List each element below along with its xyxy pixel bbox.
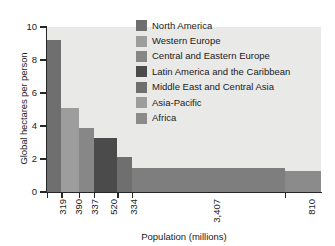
ecological-footprint-bar-chart: Global hectares per person 0246810 31939… xyxy=(0,0,335,246)
bar xyxy=(47,40,61,192)
x-axis-tick-label: 319 xyxy=(58,199,68,215)
legend-item-label: Middle East and Central Asia xyxy=(152,82,274,92)
x-axis-line xyxy=(46,192,322,193)
legend-item: Central and Eastern Europe xyxy=(136,49,290,64)
legend-swatch-icon xyxy=(136,51,147,62)
y-axis-tick xyxy=(40,59,47,60)
legend-item-label: Asia-Pacific xyxy=(152,98,202,108)
y-axis-tick xyxy=(40,92,47,93)
x-axis-tick xyxy=(79,193,80,198)
legend-swatch-icon xyxy=(136,82,147,93)
bar xyxy=(132,168,285,192)
legend-item: North America xyxy=(136,18,290,33)
x-axis-tick-label: 810 xyxy=(307,199,317,215)
legend-item: Africa xyxy=(136,110,290,125)
x-axis-tick-label: 3,407 xyxy=(212,199,222,223)
x-axis-tick xyxy=(94,193,95,198)
legend-swatch-icon xyxy=(136,97,147,108)
y-axis-tick xyxy=(40,191,47,192)
x-axis-title: Population (millions) xyxy=(47,231,321,242)
y-axis-tick-label: 4 xyxy=(0,121,37,131)
legend-swatch-icon xyxy=(136,113,147,124)
x-axis-tick xyxy=(285,193,286,198)
bar xyxy=(79,128,94,192)
y-axis-tick xyxy=(40,125,47,126)
legend-item-label: Latin America and the Caribbean xyxy=(152,67,290,77)
legend: North AmericaWestern EuropeCentral and E… xyxy=(136,18,290,126)
legend-item: Asia-Pacific xyxy=(136,95,290,110)
y-axis-tick-label: 8 xyxy=(0,55,37,65)
legend-item: Middle East and Central Asia xyxy=(136,80,290,95)
legend-item-label: Western Europe xyxy=(152,36,220,46)
y-axis-tick xyxy=(40,158,47,159)
y-axis-tick-label: 2 xyxy=(0,154,37,164)
x-axis-tick-label: 337 xyxy=(90,199,100,215)
y-axis-tick-label: 10 xyxy=(0,22,37,32)
y-axis-tick-label: 0 xyxy=(0,187,37,197)
legend-swatch-icon xyxy=(136,20,147,31)
bar xyxy=(285,171,321,192)
x-axis-tick-label: 390 xyxy=(74,199,84,215)
legend-swatch-icon xyxy=(136,36,147,47)
bar xyxy=(94,138,117,192)
y-axis-tick xyxy=(40,26,47,27)
x-axis-tick xyxy=(132,193,133,198)
legend-item-label: Africa xyxy=(152,113,176,123)
x-axis-tick xyxy=(47,193,48,198)
bar xyxy=(117,157,132,192)
legend-item-label: Central and Eastern Europe xyxy=(152,51,270,61)
x-axis-tick xyxy=(61,193,62,198)
x-axis-tick-label: 520 xyxy=(109,199,119,215)
x-axis-tick-label: 334 xyxy=(129,199,139,215)
x-axis-tick xyxy=(117,193,118,198)
y-axis-title: Global hectares per person xyxy=(18,24,29,194)
y-axis-tick-label: 6 xyxy=(0,88,37,98)
legend-item: Latin America and the Caribbean xyxy=(136,64,290,79)
legend-item-label: North America xyxy=(152,21,212,31)
legend-item: Western Europe xyxy=(136,33,290,48)
legend-swatch-icon xyxy=(136,66,147,77)
bar xyxy=(61,108,78,192)
